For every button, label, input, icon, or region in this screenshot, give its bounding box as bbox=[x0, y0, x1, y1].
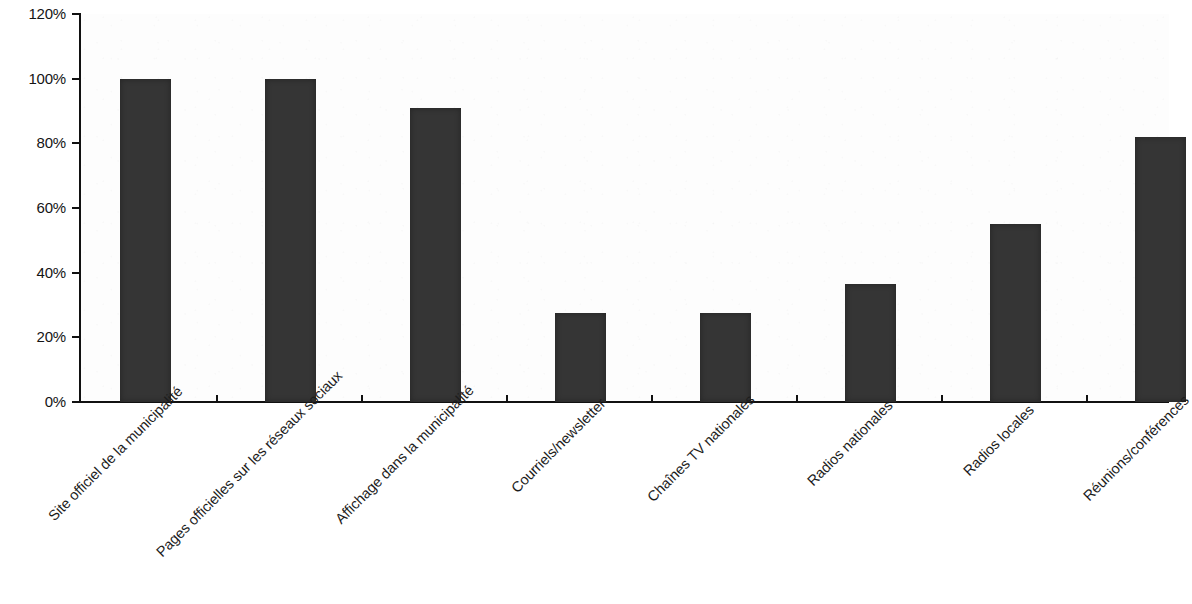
x-axis-tick bbox=[796, 395, 798, 403]
y-axis-tick bbox=[72, 272, 81, 274]
y-axis-tick bbox=[72, 207, 81, 209]
bar bbox=[990, 224, 1041, 402]
y-axis-tick-label: 120% bbox=[6, 6, 66, 21]
bar bbox=[265, 79, 316, 402]
x-axis-category-label: Affichage dans la municipalité bbox=[332, 383, 476, 527]
x-axis-tick bbox=[651, 395, 653, 403]
x-axis-tick bbox=[941, 395, 943, 403]
x-axis-category-label: Courriels/newsletter bbox=[509, 396, 609, 496]
x-axis-category-label: Réunions/conférences bbox=[1081, 392, 1192, 503]
bar bbox=[845, 284, 896, 402]
x-axis-category-label: Site officiel de la municipalité bbox=[45, 384, 185, 524]
y-axis-tick-label: 0% bbox=[6, 394, 66, 409]
y-axis-tick-label: 80% bbox=[6, 135, 66, 150]
y-axis-tick-label: 100% bbox=[6, 71, 66, 86]
bar bbox=[700, 313, 751, 402]
bar bbox=[410, 108, 461, 402]
x-axis-category-label: Radios locales bbox=[960, 402, 1036, 478]
y-axis-tick bbox=[72, 78, 81, 80]
y-axis-tick bbox=[72, 336, 81, 338]
y-axis-tick bbox=[72, 142, 81, 144]
bar bbox=[1135, 137, 1186, 402]
x-axis-tick bbox=[506, 395, 508, 403]
y-axis-tick-label: 20% bbox=[6, 329, 66, 344]
x-axis-category-label: Chaînes TV nationales bbox=[645, 392, 758, 505]
y-axis-tick-label: 40% bbox=[6, 265, 66, 280]
x-axis-tick bbox=[1086, 395, 1088, 403]
y-axis-tick bbox=[72, 13, 81, 15]
x-axis-tick bbox=[361, 395, 363, 403]
x-axis-category-label: Radios nationales bbox=[805, 398, 896, 489]
y-axis-tick bbox=[72, 401, 81, 403]
bar bbox=[555, 313, 606, 402]
y-axis-tick-label: 60% bbox=[6, 200, 66, 215]
x-axis-tick bbox=[216, 395, 218, 403]
bar bbox=[120, 79, 171, 402]
